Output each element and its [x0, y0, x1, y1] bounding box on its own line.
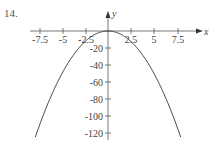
- y-axis-arrow-icon: [106, 11, 111, 18]
- y-tick-label: -120: [85, 128, 103, 139]
- y-tick-label: -60: [90, 77, 103, 88]
- y-axis-label: y: [111, 8, 117, 19]
- y-tick-label: -20: [90, 43, 103, 54]
- y-tick-label: -100: [85, 111, 103, 122]
- x-axis-arrow-icon: [196, 29, 203, 34]
- x-tick-label: 5: [152, 34, 157, 45]
- parabola-chart: x y -7.5 -5 -2.5 2.5 5 7.5 -20 -40 -60 -…: [0, 0, 216, 147]
- x-tick-label: 2.5: [125, 34, 138, 45]
- y-tick-label: -40: [90, 60, 103, 71]
- x-axis-label: x: [203, 26, 209, 37]
- y-tick-label: -80: [90, 94, 103, 105]
- x-tick-label: -5: [59, 34, 67, 45]
- x-tick-label: -7.5: [32, 34, 48, 45]
- x-tick-label: 7.5: [172, 34, 185, 45]
